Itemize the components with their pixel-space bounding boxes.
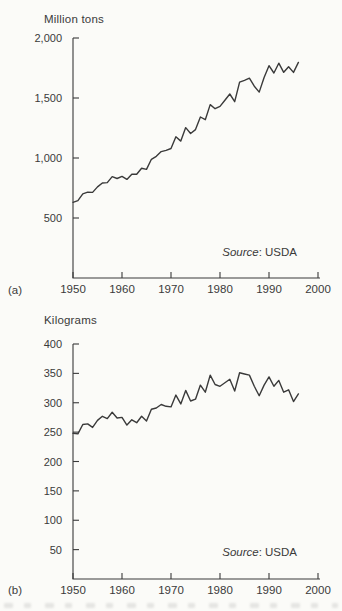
x-tick-label: 1960 <box>109 584 135 596</box>
x-tick-label: 1970 <box>158 584 184 596</box>
x-tick-label: 2000 <box>305 283 331 295</box>
y-tick-label: 300 <box>44 397 62 409</box>
x-tick-label: 1950 <box>60 584 86 596</box>
y-tick-label: 1,500 <box>34 92 62 104</box>
y-tick-label: 50 <box>50 544 62 556</box>
x-tick-label: 1970 <box>158 283 184 295</box>
y-tick-label: 1,000 <box>34 152 62 164</box>
cropped-caption-artifact <box>4 603 338 608</box>
grain-per-person-chart: 5010015020025030035040019501960197019801… <box>0 300 342 611</box>
x-tick-label: 1960 <box>109 283 135 295</box>
chart-panel-a: Million tons 5001,0001,5002,000195019601… <box>0 0 342 300</box>
y-tick-label: 400 <box>44 338 62 350</box>
source-label: Source <box>222 246 258 258</box>
source-name: : USDA <box>259 546 297 558</box>
x-tick-label: 1980 <box>207 283 233 295</box>
axis-lines <box>73 38 320 278</box>
x-tick-label: 1980 <box>207 584 233 596</box>
data-line <box>73 62 298 202</box>
scanned-figure-page: Million tons 5001,0001,5002,000195019601… <box>0 0 342 611</box>
source-credit: Source: USDA <box>222 246 297 258</box>
data-line <box>73 373 298 434</box>
x-tick-label: 1990 <box>256 283 282 295</box>
source-credit: Source: USDA <box>222 546 297 558</box>
chart-panel-b: Kilograms 501001502002503003504001950196… <box>0 300 342 611</box>
source-name: : USDA <box>259 246 297 258</box>
y-tick-label: 250 <box>44 426 62 438</box>
y-tick-label: 100 <box>44 514 62 526</box>
x-tick-label: 1990 <box>256 584 282 596</box>
y-tick-label: 2,000 <box>34 32 62 44</box>
panel-label-a: (a) <box>8 284 22 296</box>
axis-lines <box>73 344 320 579</box>
y-tick-label: 150 <box>44 485 62 497</box>
x-tick-label: 2000 <box>305 584 331 596</box>
panel-label-b: (b) <box>8 584 22 596</box>
x-tick-label: 1950 <box>60 283 86 295</box>
y-tick-label: 350 <box>44 367 62 379</box>
source-label: Source <box>222 546 258 558</box>
y-tick-label: 200 <box>44 456 62 468</box>
y-tick-label: 500 <box>44 212 62 224</box>
